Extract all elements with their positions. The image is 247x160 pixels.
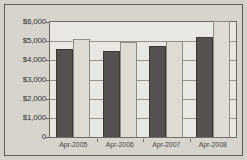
y-axis-label: $1,000 — [23, 112, 46, 121]
bar-group — [56, 22, 90, 137]
x-axis: Apr-2005Apr-2006Apr-2007Apr-2008 — [50, 139, 236, 153]
y-axis-label: 0 — [42, 132, 46, 141]
bar-group — [149, 22, 183, 137]
bar — [149, 46, 166, 137]
bar-group — [196, 22, 230, 137]
x-axis-label: Apr-2005 — [59, 139, 87, 153]
y-axis-tick — [46, 137, 50, 138]
x-axis-label: Apr-2007 — [152, 139, 180, 153]
bar — [166, 41, 183, 137]
y-axis-label: $6,000 — [23, 17, 46, 26]
bar — [73, 39, 90, 137]
bar — [56, 49, 73, 137]
figure-frame: $6,000$5,000$4,000$3,000$2,000$1,0000 Ap… — [4, 4, 243, 156]
y-axis-label: $2,000 — [23, 93, 46, 102]
chart-area: $6,000$5,000$4,000$3,000$2,000$1,0000 Ap… — [13, 13, 244, 157]
y-axis-label: $4,000 — [23, 55, 46, 64]
x-axis-tick — [190, 139, 191, 142]
bar-groups — [50, 22, 236, 137]
y-axis: $6,000$5,000$4,000$3,000$2,000$1,0000 — [13, 21, 46, 136]
x-axis-tick — [143, 139, 144, 142]
y-axis-label: $5,000 — [23, 36, 46, 45]
y-axis-label: $3,000 — [23, 74, 46, 83]
chart-screenshot: $6,000$5,000$4,000$3,000$2,000$1,0000 Ap… — [0, 0, 247, 160]
x-axis-label: Apr-2008 — [199, 139, 227, 153]
bar — [213, 21, 230, 137]
bar — [196, 37, 213, 137]
bar — [120, 42, 137, 137]
x-axis-tick — [97, 139, 98, 142]
bar — [103, 51, 120, 137]
bar-group — [103, 22, 137, 137]
x-axis-label: Apr-2006 — [106, 139, 134, 153]
